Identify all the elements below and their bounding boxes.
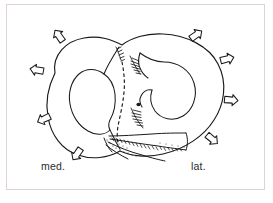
arrow-right-lower <box>224 94 238 106</box>
specimen-outer-outline <box>47 34 224 158</box>
arrow-top-right <box>188 26 205 43</box>
arrow-bottom-right <box>203 131 220 148</box>
medial-compartment-outline <box>69 47 120 149</box>
arrow-left-upper <box>29 63 44 76</box>
arrow-bottom-left <box>68 146 85 163</box>
tear-hatching-mid-lateral <box>131 108 143 128</box>
arrow-top-left <box>50 27 67 44</box>
arrow-right-upper <box>219 52 235 66</box>
anatomical-diagram <box>0 0 273 203</box>
lateral-compartment-outline <box>139 53 196 119</box>
attachment-node <box>136 103 140 106</box>
figure-page: med. lat. <box>0 0 273 203</box>
label-lateral: lat. <box>191 161 206 172</box>
label-medial: med. <box>41 161 65 172</box>
tear-hatching-upper-medial <box>116 47 125 61</box>
hidden-edge-dashed-line <box>117 62 124 143</box>
